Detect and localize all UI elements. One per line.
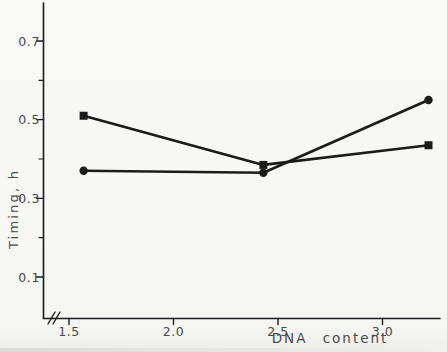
- figure: 0.10.30.50.71.52.02.53.0 Timing, h DNA c…: [0, 0, 447, 352]
- x-axis-title: DNA content: [272, 330, 389, 346]
- data-point-square: [80, 112, 88, 120]
- y-tick-label: 0.7: [18, 34, 40, 49]
- x-tick-label: 1.5: [58, 324, 80, 339]
- chart-canvas: 0.10.30.50.71.52.02.53.0: [0, 0, 447, 352]
- data-point-circle: [259, 169, 267, 177]
- y-tick-label: 0.3: [18, 191, 40, 206]
- y-tick-label: 0.5: [18, 112, 40, 127]
- data-point-square: [424, 141, 432, 149]
- data-point-circle: [79, 167, 87, 175]
- x-tick-label: 2.0: [163, 324, 185, 339]
- y-tick-label: 0.1: [18, 270, 40, 285]
- data-point-square: [259, 161, 267, 169]
- data-point-circle: [424, 96, 432, 104]
- y-axis-title: Timing, h: [6, 169, 21, 249]
